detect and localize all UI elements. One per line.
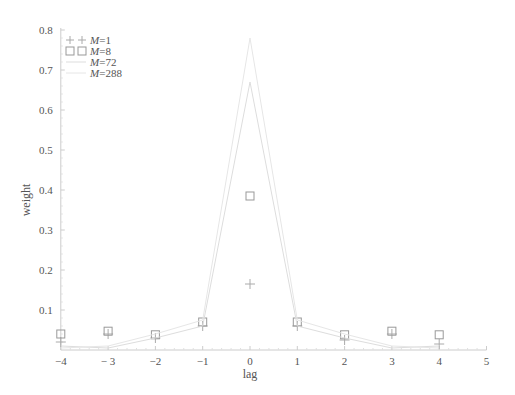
legend-cross-icon <box>66 36 86 44</box>
x-tick-label: 1 <box>295 355 301 367</box>
legend-label: M=288 <box>89 67 122 79</box>
y-tick-label: 0.7 <box>39 64 53 76</box>
x-tick-label: 0 <box>247 355 253 367</box>
chart-container: 0.10.20.30.40.50.60.70.8−4− 3−2−1012345 … <box>0 0 515 395</box>
square-marker <box>435 331 443 339</box>
y-tick-label: 0.8 <box>39 24 53 36</box>
y-tick-label: 0.6 <box>39 104 53 116</box>
y-tick-label: 0.5 <box>39 144 53 156</box>
y-axis-label: weight <box>19 183 33 216</box>
legend: M=1M=8M=72M=288 <box>66 34 122 79</box>
y-tick-label: 0.2 <box>39 264 53 276</box>
x-tick-label: −2 <box>150 355 162 367</box>
legend-square-icon <box>66 47 74 55</box>
x-tick-label: 4 <box>436 355 442 367</box>
x-tick-label: 2 <box>342 355 348 367</box>
series-line <box>61 82 439 348</box>
lag-weight-chart: 0.10.20.30.40.50.60.70.8−4− 3−2−1012345 … <box>0 0 515 395</box>
square-marker <box>246 192 254 200</box>
x-axis-label: lag <box>243 367 258 381</box>
x-tick-label: −1 <box>197 355 209 367</box>
series-m-1 <box>56 279 444 349</box>
cross-marker <box>245 279 255 289</box>
x-tick-label: 5 <box>484 355 490 367</box>
y-tick-label: 0.3 <box>39 224 53 236</box>
series-layer <box>56 38 444 349</box>
y-tick-label: 0.4 <box>39 184 53 196</box>
y-tick-label: 0.1 <box>39 304 53 316</box>
series-m-8 <box>57 192 443 339</box>
x-tick-label: − 3 <box>101 355 116 367</box>
x-tick-label: 3 <box>389 355 395 367</box>
series-m-72 <box>61 82 439 348</box>
legend-square-icon <box>78 47 86 55</box>
x-tick-label: −4 <box>55 355 67 367</box>
